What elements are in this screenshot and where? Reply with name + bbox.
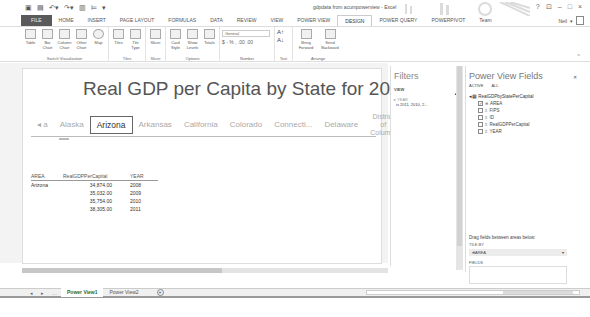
tile-arkansas[interactable]: Arkansas: [133, 121, 178, 129]
checkbox[interactable]: [478, 108, 483, 113]
tab-insert[interactable]: INSERT: [81, 15, 113, 26]
field-year[interactable]: ΣYEAR: [466, 127, 585, 134]
checkbox[interactable]: [478, 122, 483, 127]
field-realgdppercapital[interactable]: ΣRealGDPPerCapital: [466, 120, 585, 127]
group-label: Arrange: [293, 56, 343, 61]
user-account[interactable]: Neil▾: [558, 16, 584, 25]
tile-california[interactable]: California: [178, 121, 224, 129]
vertical-scrollbar[interactable]: [456, 66, 463, 270]
filters-title: Filters: [391, 66, 455, 81]
chevron-down-icon[interactable]: ▾: [562, 249, 564, 256]
undo-icon[interactable]: ↶▾: [49, 4, 59, 12]
tile-arizona[interactable]: Arizona: [90, 116, 133, 134]
tab-powerpivot[interactable]: POWERPIVOT: [424, 15, 472, 26]
scrollbar-thumb[interactable]: [22, 268, 222, 273]
table-header-row: AREA RealGDPPerCapital YEAR: [31, 173, 158, 181]
sheet-tab-power-view2[interactable]: Power View2: [103, 288, 144, 297]
group-label: Options: [166, 56, 219, 61]
number-format-select[interactable]: General: [222, 30, 270, 37]
next-sheet-icon[interactable]: ▸: [37, 290, 48, 296]
tab-power-query[interactable]: POWER QUERY: [372, 15, 424, 26]
field-table[interactable]: ◂▦ RealGDPbyStatePerCapital: [466, 88, 585, 99]
group-number: General $ - % , .00 .00 Number: [220, 27, 275, 62]
toolbar-icon-2[interactable]: ⊨: [91, 4, 97, 12]
checkbox[interactable]: [478, 115, 483, 120]
globe-icon: ⊕: [485, 101, 488, 106]
ribbon-display-icon[interactable]: ⊡: [546, 3, 552, 11]
sheet-tab-power-view1[interactable]: Power View1: [61, 288, 103, 297]
power-view-fields-pane: Power View Fields ✕ ACTIVE ALL ◂▦ RealGD…: [465, 66, 585, 272]
decrease-font-button[interactable]: A↓: [277, 37, 290, 43]
toolbar-icon[interactable]: ▥: [79, 4, 86, 12]
globe-icon: [93, 29, 104, 39]
tab-design[interactable]: DESIGN: [337, 15, 372, 27]
ribbon-tabs: FILE HOME INSERT PAGE LAYOUT FORMULAS DA…: [0, 15, 590, 26]
customize-icon[interactable]: ▾: [102, 4, 106, 12]
tile-scroll-indicator[interactable]: [59, 138, 69, 140]
increase-font-button[interactable]: A↑: [277, 29, 290, 35]
filters-view-tab[interactable]: VIEW: [391, 81, 455, 92]
sigma-icon: Σ: [485, 108, 487, 113]
scrollbar-thumb[interactable]: [503, 291, 573, 294]
prev-sheet-icon[interactable]: ◂: [26, 290, 37, 296]
sheet-horizontal-scrollbar[interactable]: [366, 290, 580, 295]
tile-alaska[interactable]: Alaska: [54, 121, 90, 129]
tile-connecticut[interactable]: Connecti...: [268, 121, 318, 129]
tab-view[interactable]: VIEW: [263, 15, 290, 26]
filter-year[interactable]: ▸ YEAR: [391, 92, 455, 102]
checkbox[interactable]: [478, 129, 483, 134]
tile-by-field[interactable]: ⊕AREA▾: [469, 249, 567, 256]
fields-drop-zone[interactable]: [469, 266, 567, 284]
report-canvas[interactable]: Real GDP per Capita by State for 2008-20…: [22, 68, 382, 264]
column-chart-icon: [59, 29, 70, 39]
tab-formulas[interactable]: FORMULAS: [161, 15, 203, 26]
close-icon[interactable]: ✕: [573, 74, 577, 80]
line-chart-icon: [76, 29, 87, 39]
filters-pane: Filters VIEW ▸ YEAR is 2011, 2010, 2...: [390, 66, 455, 266]
tab-page-layout[interactable]: PAGE LAYOUT: [113, 15, 162, 26]
minimize-icon[interactable]: –: [558, 3, 562, 11]
canvas-horizontal-scrollbar[interactable]: [22, 268, 388, 273]
col-realgdppercapital[interactable]: RealGDPPerCapital: [63, 173, 118, 181]
save-icon[interactable]: ▤: [37, 4, 44, 12]
collapse-ribbon-icon[interactable]: ^: [577, 53, 580, 59]
maximize-icon[interactable]: □: [568, 3, 572, 11]
col-year[interactable]: YEAR: [118, 173, 158, 181]
data-table[interactable]: AREA RealGDPPerCapital YEAR Arizona34,87…: [31, 173, 158, 213]
number-format-buttons[interactable]: $ - % , .00 .00: [222, 39, 272, 45]
fields-tabs: ACTIVE ALL: [466, 81, 585, 88]
field-fips[interactable]: ΣFIPS: [466, 106, 585, 113]
avatar: [576, 16, 584, 25]
ribbon: Table Bar Chart Column Chart Other Chart…: [0, 26, 590, 62]
group-tiles: Tiles Tile Type Tiles: [109, 27, 146, 62]
more-sheets-icon[interactable]: …: [48, 290, 61, 296]
tab-team[interactable]: Team: [472, 15, 498, 26]
tile-colorado[interactable]: Colorado: [224, 121, 268, 129]
tile-type-icon: [130, 29, 141, 39]
help-icon[interactable]: ?: [536, 3, 540, 11]
bring-forward-icon: [301, 29, 312, 39]
add-sheet-button[interactable]: +: [157, 289, 164, 296]
tab-data[interactable]: DATA: [203, 15, 230, 26]
group-text: A↑ A↓ Text: [275, 27, 293, 62]
group-label: Slicer: [146, 56, 165, 61]
group-label: Number: [220, 56, 274, 61]
card-style-icon: [170, 29, 181, 39]
excel-logo-icon: ▣: [25, 4, 32, 12]
close-icon[interactable]: ×: [578, 3, 582, 11]
field-area[interactable]: ✓⊕AREA: [466, 99, 585, 106]
tab-review[interactable]: REVIEW: [230, 15, 264, 26]
tile-delaware[interactable]: Delaware: [318, 121, 364, 129]
scrollbar-thumb[interactable]: [457, 66, 462, 246]
tiles-icon: [113, 29, 124, 39]
redo-icon[interactable]: ↷▾: [64, 4, 74, 12]
tab-active[interactable]: ACTIVE: [469, 83, 483, 88]
tab-home[interactable]: HOME: [52, 15, 81, 26]
col-area[interactable]: AREA: [31, 173, 63, 181]
tile-prev[interactable]: ◂ a: [31, 121, 54, 129]
checkbox[interactable]: ✓: [478, 101, 483, 106]
tab-all[interactable]: ALL: [491, 83, 498, 88]
tab-power-view[interactable]: POWER VIEW: [290, 15, 337, 26]
tab-file[interactable]: FILE: [21, 15, 52, 26]
field-id[interactable]: ΣID: [466, 113, 585, 120]
